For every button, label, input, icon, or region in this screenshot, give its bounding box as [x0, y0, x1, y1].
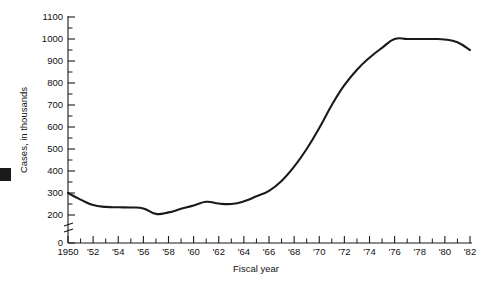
x-axis: 1950'52'54'56'58'60'62'64'66'68'70'72'74… — [57, 236, 476, 257]
x-tick-label: '72 — [338, 246, 350, 257]
x-tick-label: '56 — [137, 246, 149, 257]
y-axis-ticks — [68, 17, 75, 243]
y-tick-label: 600 — [47, 121, 63, 132]
y-axis-title: Cases, in thousands — [18, 87, 29, 173]
x-axis-tick-labels: 1950'52'54'56'58'60'62'64'66'68'70'72'74… — [57, 246, 476, 257]
y-axis-tick-labels: 110010009008007006005004003002000 — [42, 11, 63, 248]
data-series-group — [68, 38, 470, 214]
y-tick-label: 500 — [47, 143, 63, 154]
x-tick-label: '66 — [263, 246, 275, 257]
y-tick-label: 400 — [47, 165, 63, 176]
x-tick-label: '60 — [187, 246, 199, 257]
x-tick-label: '70 — [313, 246, 325, 257]
y-tick-label: 1100 — [43, 11, 63, 22]
y-tick-label: 900 — [47, 55, 63, 66]
x-tick-label: '58 — [162, 246, 174, 257]
y-tick-label: 300 — [47, 187, 63, 198]
x-tick-label: '68 — [288, 246, 300, 257]
y-tick-label: 1000 — [42, 33, 63, 44]
edge-artifact-mark — [0, 168, 11, 181]
y-tick-label: 700 — [47, 99, 63, 110]
x-tick-label: '62 — [213, 246, 225, 257]
x-axis-ticks — [68, 236, 470, 243]
x-axis-title: Fiscal year — [233, 263, 279, 274]
chart-container: 110010009008007006005004003002000 1950'5… — [0, 0, 498, 286]
x-tick-label: '78 — [414, 246, 426, 257]
x-tick-label: 1950 — [57, 246, 78, 257]
x-tick-label: '76 — [388, 246, 400, 257]
y-axis: 110010009008007006005004003002000 — [42, 11, 75, 248]
y-tick-label: 200 — [47, 209, 63, 220]
x-tick-label: '80 — [439, 246, 451, 257]
x-tick-label: '74 — [363, 246, 375, 257]
line-chart: 110010009008007006005004003002000 1950'5… — [0, 0, 498, 286]
x-tick-label: '82 — [464, 246, 476, 257]
x-tick-label: '54 — [112, 246, 124, 257]
x-tick-label: '64 — [238, 246, 250, 257]
series-line-cases — [68, 38, 470, 214]
x-tick-label: '52 — [87, 246, 99, 257]
y-tick-label: 800 — [47, 77, 63, 88]
